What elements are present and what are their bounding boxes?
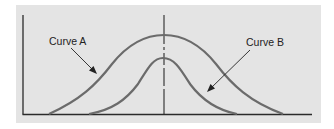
arrow-curve-a [71,48,97,74]
curve-b-label: Curve B [246,36,284,48]
curve-a-label: Curve A [49,35,86,47]
arrow-curve-b [207,50,250,92]
bell-curves-diagram: Curve A Curve B [0,0,334,129]
